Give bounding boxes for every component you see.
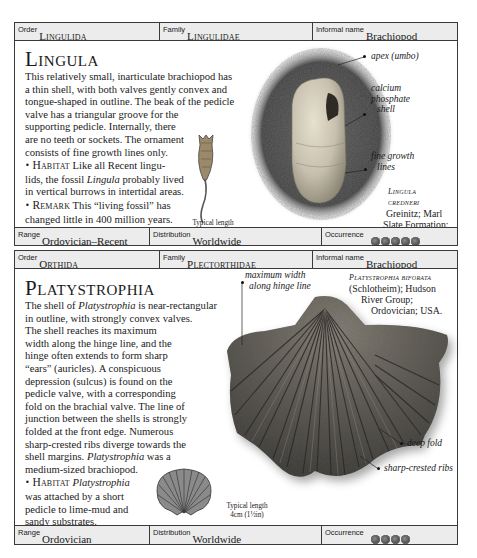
platystrophia-card: OrderOrthida FamilyPlectorthidae Informa… (14, 250, 458, 545)
occurrence-dot-icon (371, 237, 380, 245)
occurrence-dot-icon (381, 535, 390, 544)
specimen-name: credneri (373, 197, 449, 208)
annotation-shell: calcium phosphate shell (371, 83, 410, 115)
lingula-footer-bar: RangeOrdovician–Recent DistributionWorld… (15, 227, 457, 245)
distribution-value: Worldwide (193, 533, 242, 544)
range-value: Ordovician (42, 533, 91, 544)
occurrence-dot-icon (371, 535, 380, 544)
annotation-text: fine growth (371, 151, 414, 162)
range-field: RangeOrdovician–Recent (15, 228, 149, 245)
annotation-ribs: sharp-crested ribs (384, 463, 453, 474)
range-field: RangeOrdovician (15, 526, 149, 544)
distribution-field: DistributionWorldwide (149, 228, 321, 245)
occurrence-dot-icon (381, 237, 390, 245)
distribution-label: Distribution (153, 230, 191, 239)
occurrence-dot-icon (391, 237, 400, 245)
distribution-label: Distribution (153, 528, 191, 537)
annotation-text: maximum width (245, 270, 311, 281)
annotation-dot (377, 467, 380, 470)
specimen-name: Lingula (373, 186, 449, 197)
lingula-card: OrderLingulida FamilyLingulidae Informal… (14, 22, 458, 246)
occurrence-dot-icon (411, 237, 420, 245)
annotation-dot (363, 113, 366, 116)
occurrence-field: Occurrence (321, 228, 457, 245)
specimen-caption: Platystrophia biforata (Schlotheim); Hud… (349, 272, 442, 316)
specimen-text: Greinitz; Marl (373, 208, 449, 219)
annotation-text: lines (371, 162, 414, 173)
distribution-field: DistributionWorldwide (149, 526, 321, 544)
annotation-deep-fold: deep fold (407, 438, 442, 449)
occurrence-label: Occurrence (325, 230, 364, 239)
platystrophia-footer-bar: RangeOrdovician DistributionWorldwide Oc… (15, 525, 457, 544)
annotation-text: shell (371, 104, 410, 115)
range-value: Ordovician–Recent (42, 235, 128, 245)
specimen-text: Ordovician; USA. (349, 305, 442, 316)
specimen-text: (Schlotheim); Hudson (349, 283, 442, 294)
range-label: Range (18, 230, 40, 239)
annotation-text: along hinge line (245, 281, 311, 292)
annotation-dot (400, 442, 403, 445)
distribution-value: Worldwide (193, 235, 242, 245)
occurrence-dot-icon (401, 237, 410, 245)
occurrence-rating (371, 530, 411, 544)
occurrence-label: Occurrence (325, 528, 364, 537)
specimen-text: River Group; (349, 294, 442, 305)
occurrence-dot-icon (401, 535, 410, 544)
annotation-growth-lines: fine growth lines (371, 151, 414, 172)
annotation-text: calcium (371, 83, 410, 94)
occurrence-rating (371, 232, 421, 245)
annotation-dot (363, 55, 366, 58)
annotation-max-width: maximum width along hinge line (245, 270, 311, 291)
occurrence-dot-icon (391, 535, 400, 544)
annotation-dot (364, 168, 367, 171)
occurrence-field: Occurrence (321, 526, 457, 544)
range-label: Range (18, 528, 40, 537)
annotation-text: phosphate (371, 94, 410, 105)
annotation-dot (241, 281, 244, 284)
specimen-name: Platystrophia biforata (349, 272, 442, 283)
annotation-apex: apex (umbo) (371, 51, 419, 62)
